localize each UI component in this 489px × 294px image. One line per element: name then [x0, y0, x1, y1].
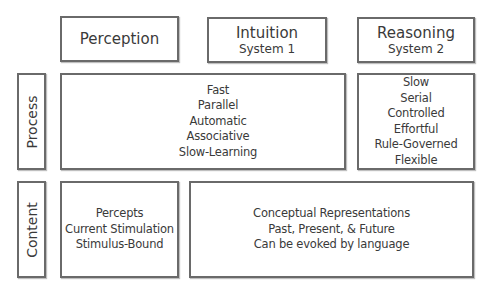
reasoning-subtitle: System 2	[388, 42, 444, 57]
cell-line: Slow	[403, 75, 429, 91]
reasoning-header: Reasoning System 2	[357, 17, 475, 63]
cell-line: Fast	[207, 83, 229, 99]
content-label: Content	[24, 202, 40, 258]
cell-line: Percepts	[96, 206, 144, 222]
content-shared-cell: Conceptual Representations Past, Present…	[189, 181, 474, 278]
content-perception-cell: Percepts Current Stimulation Stimulus-Bo…	[60, 181, 179, 278]
intuition-subtitle: System 1	[239, 42, 295, 57]
reasoning-title: Reasoning	[377, 24, 455, 42]
cell-line: Rule-Governed	[374, 137, 457, 153]
content-row-label: Content	[17, 181, 46, 278]
cell-line: Controlled	[387, 106, 444, 122]
cell-line: Slow-Learning	[179, 145, 257, 161]
cell-line: Conceptual Representations	[253, 206, 410, 222]
perception-header: Perception	[60, 16, 179, 62]
cell-line: Stimulus-Bound	[76, 237, 164, 253]
intuition-header: Intuition System 1	[207, 17, 327, 63]
cell-line: Effortful	[394, 122, 438, 138]
cell-line: Serial	[400, 91, 431, 107]
perception-title: Perception	[80, 30, 159, 48]
cell-line: Can be evoked by language	[254, 237, 410, 253]
process-reasoning-cell: Slow Serial Controlled Effortful Rule-Go…	[357, 73, 475, 170]
cell-line: Parallel	[198, 98, 238, 114]
cell-line: Current Stimulation	[65, 222, 174, 238]
cell-line: Flexible	[395, 153, 438, 169]
process-row-label: Process	[17, 73, 46, 170]
process-label: Process	[24, 95, 40, 148]
cell-line: Automatic	[189, 114, 246, 130]
intuition-title: Intuition	[236, 24, 298, 42]
cell-line: Associative	[187, 129, 250, 145]
cell-line: Past, Present, & Future	[268, 222, 394, 238]
process-shared-cell: Fast Parallel Automatic Associative Slow…	[60, 73, 346, 170]
